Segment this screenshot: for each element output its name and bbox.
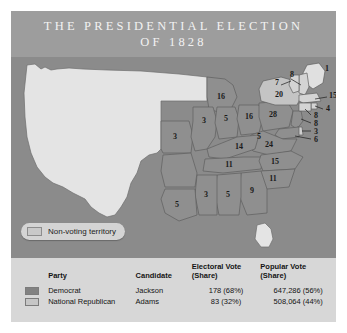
state-label-south-carolina: 11 — [269, 174, 277, 183]
democrat-swatch — [25, 287, 39, 295]
header-band: THE PRESIDENTIAL ELECTION OF 1828 — [11, 11, 336, 57]
row-candidate-jackson: Jackson — [136, 283, 192, 295]
state-label-tennessee: 11 — [225, 160, 233, 169]
state-label-maryland: 6 — [314, 135, 318, 144]
state-label-vermont: 7 — [275, 78, 279, 87]
map-legend-non-voting: Non-voting territory — [21, 223, 125, 240]
election-map: 1 8 7 15 4 8 20 8 28 3 6 24 15 11 9 16 5… — [11, 57, 336, 258]
non-voting-territory-swatch — [27, 227, 42, 236]
table-header-row: Party Candidate Electoral Vote (Share) P… — [25, 263, 336, 283]
results-table: Party Candidate Electoral Vote (Share) P… — [25, 263, 336, 306]
state-label-west-virginia: 5 — [257, 132, 261, 141]
page-title: THE PRESIDENTIAL ELECTION OF 1828 — [11, 18, 336, 50]
state-label-virginia: 24 — [265, 140, 273, 149]
results-panel: Party Candidate Electoral Vote (Share) P… — [11, 258, 336, 322]
state-label-louisiana: 5 — [175, 200, 179, 209]
state-label-pennsylvania: 28 — [269, 110, 277, 119]
state-rhode-island — [311, 103, 317, 109]
column-header-swatch — [25, 263, 48, 283]
state-label-michigan-area: 16 — [217, 92, 225, 101]
row-popular-adams: 508,064 (44%) — [260, 295, 336, 307]
state-label-new-hampshire: 8 — [290, 70, 294, 79]
row-candidate-adams: Adams — [136, 295, 192, 307]
column-header-electoral: Electoral Vote (Share) — [192, 263, 261, 283]
state-label-missouri: 3 — [173, 132, 177, 141]
non-voting-territory-label: Non-voting territory — [48, 227, 116, 236]
row-party-democrat: Democrat — [48, 283, 135, 295]
state-label-maine: 1 — [325, 64, 329, 73]
state-label-alabama: 5 — [226, 190, 230, 199]
table-row: Democrat Jackson 178 (68%) 647,286 (56%) — [25, 283, 336, 295]
state-label-illinois: 3 — [202, 116, 206, 125]
national-republican-swatch — [25, 298, 39, 306]
election-map-card: THE PRESIDENTIAL ELECTION OF 1828 — [11, 11, 336, 322]
state-label-ohio: 16 — [245, 112, 253, 121]
state-label-new-york: 20 — [275, 90, 283, 99]
row-popular-jackson: 647,286 (56%) — [260, 283, 336, 295]
table-row: National Republican Adams 83 (32%) 508,0… — [25, 295, 336, 307]
state-arkansas-area — [161, 153, 197, 187]
state-connecticut — [299, 103, 311, 111]
state-label-indiana: 5 — [224, 114, 228, 123]
state-label-north-carolina: 15 — [271, 157, 279, 166]
state-label-mississippi: 3 — [204, 190, 208, 199]
state-massachusetts — [299, 93, 321, 103]
state-label-massachusetts: 15 — [329, 91, 336, 100]
state-label-rhode-island: 4 — [326, 104, 330, 113]
column-header-popular: Popular Vote (Share) — [260, 263, 336, 283]
state-label-kentucky: 14 — [235, 142, 243, 151]
row-party-national-republican: National Republican — [48, 295, 135, 307]
row-electoral-jackson: 178 (68%) — [192, 283, 261, 295]
state-label-georgia: 9 — [250, 186, 254, 195]
column-header-candidate: Candidate — [136, 263, 192, 283]
row-electoral-adams: 83 (32%) — [192, 295, 261, 307]
state-missouri — [161, 121, 193, 153]
state-indiana — [215, 107, 239, 139]
column-header-party: Party — [48, 263, 135, 283]
